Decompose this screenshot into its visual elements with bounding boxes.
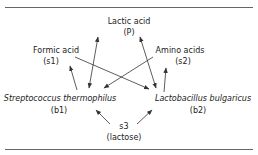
lactic-acid-label: Lactic acid xyxy=(108,17,151,26)
lactobacillus-symbol: (b2) xyxy=(190,106,206,115)
s3-label: s3 xyxy=(119,122,128,131)
lactose-label: (lactose) xyxy=(107,133,142,142)
lactic-acid-symbol: (P) xyxy=(123,28,134,37)
arrow-s3-to-b2 xyxy=(137,110,152,124)
formic-acid-label: Formic acid xyxy=(33,46,79,55)
formic-acid-symbol: (s1) xyxy=(43,57,59,66)
arrow-b2-product xyxy=(140,37,156,88)
streptococcus-symbol: (b1) xyxy=(51,106,67,115)
lactobacillus-label: Lactobacillus bulgaricus xyxy=(155,94,251,103)
amino-acids-symbol: (s2) xyxy=(175,57,191,66)
streptococcus-label: Streptococcus thermophilus xyxy=(4,94,116,103)
arrow-s1-to-b2 xyxy=(75,57,149,89)
arrow-b1-product xyxy=(89,37,98,88)
arrow-b1-to-s1 xyxy=(70,66,77,90)
amino-acids-label: Amino acids xyxy=(156,46,205,55)
arrow-b2-to-s2 xyxy=(164,68,166,92)
arrow-s3-to-b1 xyxy=(96,110,110,124)
